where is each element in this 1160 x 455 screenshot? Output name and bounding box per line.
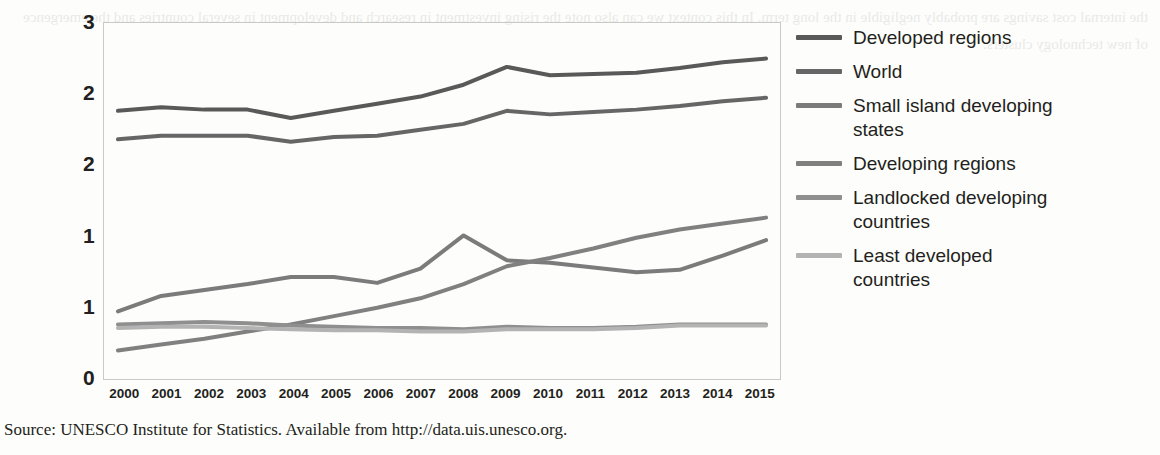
legend-item[interactable]: Landlocked developing countries — [796, 186, 1156, 234]
y-axis-tick-label: 2 — [9, 152, 95, 176]
x-axis-tick-label: 2013 — [660, 386, 690, 401]
legend-item-label: Small island developingstates — [853, 94, 1053, 142]
legend-item-label: Developing regions — [853, 152, 1016, 176]
x-axis: 2000200120022003200420052006200720082009… — [103, 386, 781, 408]
y-axis-tick-label: 1 — [9, 224, 95, 248]
legend-item-label-line2: countries — [853, 210, 1047, 234]
legend-item[interactable]: World — [796, 60, 1156, 84]
x-axis-tick-label: 2001 — [152, 386, 182, 401]
source-note: Source: UNESCO Institute for Statistics.… — [4, 420, 567, 440]
legend-line-swatch — [796, 69, 842, 74]
x-axis-tick-label: 2008 — [448, 386, 478, 401]
y-axis-tick-label: 3 — [9, 10, 95, 34]
legend-item-label-line2: states — [853, 118, 1053, 142]
series-line — [118, 98, 766, 142]
figure-container: 322110 200020012002200320042005200620072… — [0, 0, 1160, 455]
series-line — [118, 59, 766, 118]
x-axis-tick-label: 2014 — [702, 386, 732, 401]
legend-item-label: Developed regions — [853, 26, 1011, 50]
series-svg — [104, 23, 780, 379]
legend-item[interactable]: Least developedcountries — [796, 244, 1156, 292]
x-axis-tick-label: 2000 — [109, 386, 139, 401]
x-axis-tick-label: 2002 — [194, 386, 224, 401]
x-axis-tick-label: 2007 — [406, 386, 436, 401]
x-axis-tick-label: 2012 — [618, 386, 648, 401]
x-axis-tick-label: 2009 — [491, 386, 521, 401]
legend-item-label-line2: countries — [853, 268, 992, 292]
legend-item[interactable]: Small island developingstates — [796, 94, 1156, 142]
plot-area — [103, 22, 781, 380]
chart-plot-wrapper: 322110 200020012002200320042005200620072… — [0, 0, 800, 400]
legend-line-swatch — [796, 195, 842, 200]
x-axis-tick-label: 2003 — [236, 386, 266, 401]
x-axis-tick-label: 2004 — [279, 386, 309, 401]
y-axis-tick-label: 1 — [9, 295, 95, 319]
legend-item-label: World — [853, 60, 902, 84]
legend-item-label: Least developedcountries — [853, 244, 992, 292]
legend-line-swatch — [796, 161, 842, 166]
legend-line-swatch — [796, 253, 842, 258]
x-axis-tick-label: 2011 — [576, 386, 605, 401]
x-axis-tick-label: 2015 — [745, 386, 775, 401]
y-axis-tick-label: 2 — [9, 81, 95, 105]
legend-line-swatch — [796, 35, 842, 40]
x-axis-tick-label: 2010 — [533, 386, 563, 401]
y-axis-tick-label: 0 — [9, 366, 95, 390]
chart-legend: Developed regionsWorldSmall island devel… — [796, 26, 1156, 302]
legend-item-label: Landlocked developing countries — [853, 186, 1047, 234]
x-axis-tick-label: 2006 — [363, 386, 393, 401]
legend-item[interactable]: Developing regions — [796, 152, 1156, 176]
legend-item[interactable]: Developed regions — [796, 26, 1156, 50]
series-line — [118, 235, 766, 311]
y-axis: 322110 — [0, 0, 95, 402]
x-axis-tick-label: 2005 — [321, 386, 351, 401]
legend-line-swatch — [796, 103, 842, 108]
